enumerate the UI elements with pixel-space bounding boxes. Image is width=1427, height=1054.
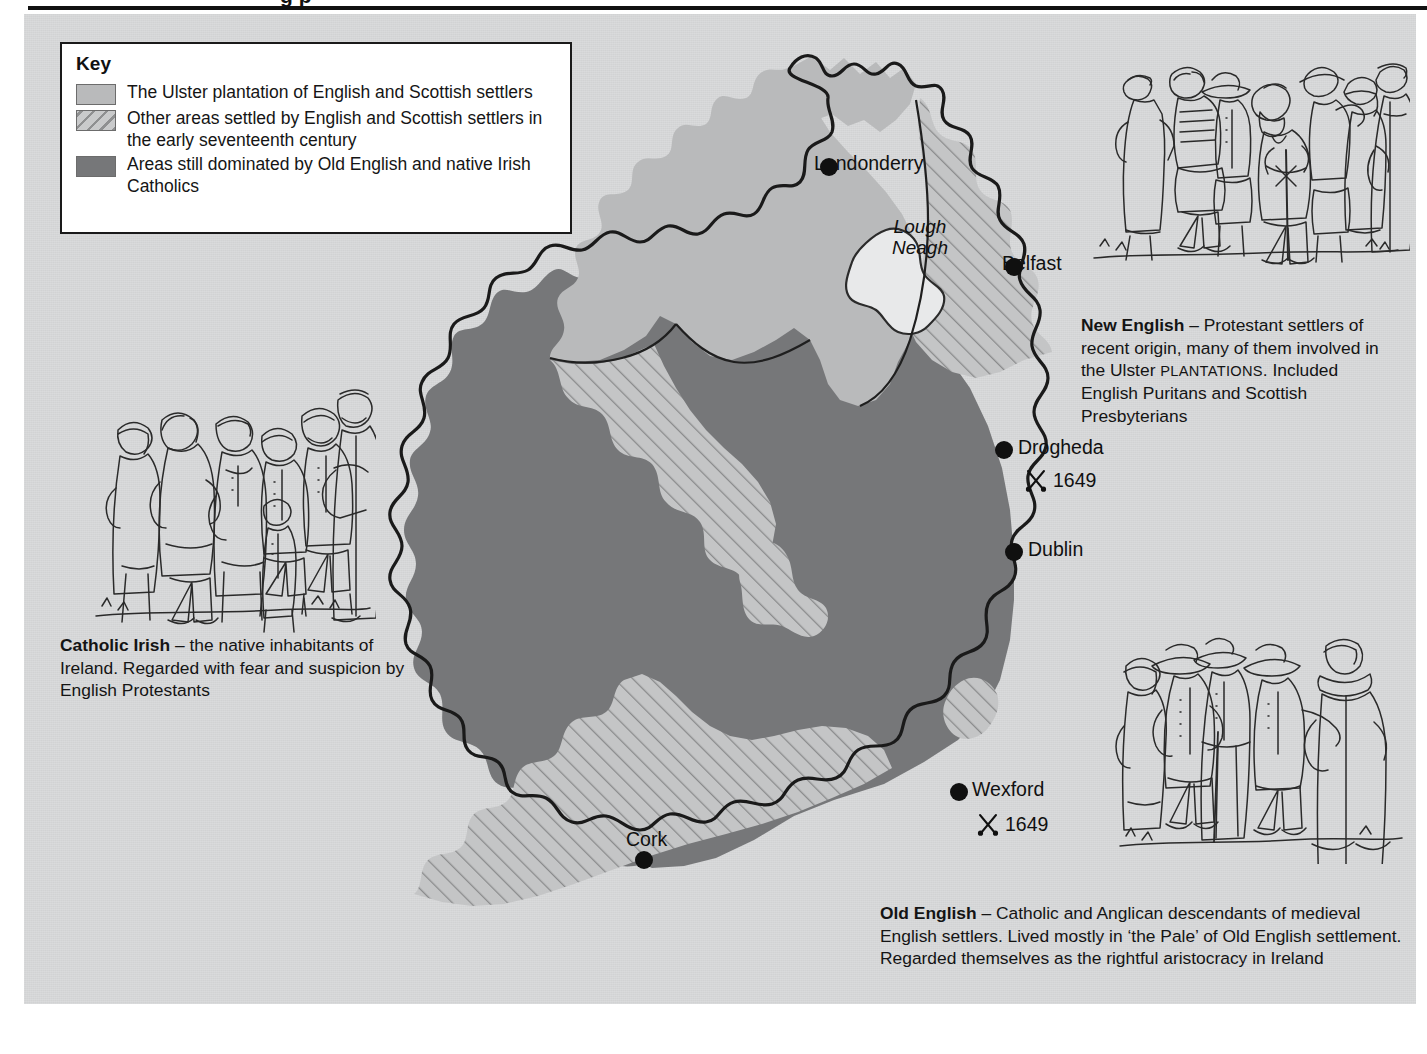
- clipped-heading-text: g p: [280, 0, 312, 8]
- battle-year-drogheda: 1649: [1053, 469, 1096, 492]
- water-label-lough-neagh: Lough Neagh: [892, 216, 948, 259]
- crossed-swords-icon: [976, 812, 1000, 836]
- old-english-figures-drawing: [1110, 614, 1410, 864]
- illustration-old-english: [1110, 614, 1410, 864]
- annotation-title-old-english: Old English: [880, 903, 977, 923]
- page-top-rule: [28, 6, 1427, 10]
- key-title: Key: [76, 53, 558, 75]
- annotation-catholic-irish: Catholic Irish – the native inhabitants …: [60, 634, 430, 702]
- map-key: Key The Ulster plantation of English and…: [60, 42, 572, 234]
- clipped-heading-fragment: g p: [280, 0, 600, 8]
- city-dot-dublin: [1005, 543, 1023, 561]
- crossed-swords-icon: [1024, 468, 1048, 492]
- key-label-catholic-dominated: Areas still dominated by Old English and…: [127, 154, 558, 197]
- battle-marker-drogheda: 1649: [1024, 468, 1096, 492]
- new-english-figures-drawing: [1080, 40, 1410, 280]
- city-label-drogheda: Drogheda: [1018, 436, 1104, 459]
- battle-year-wexford: 1649: [1005, 813, 1048, 836]
- map-figure-panel: Key The Ulster plantation of English and…: [24, 14, 1416, 1004]
- annotation-new-english: New English – Protestant settlers of rec…: [1081, 314, 1381, 427]
- city-label-belfast: Belfast: [1002, 252, 1062, 275]
- key-item-other-settled: Other areas settled by English and Scott…: [76, 108, 558, 151]
- annotation-smallcaps-plantations: PLANTATIONS: [1160, 363, 1263, 379]
- city-dot-drogheda: [995, 441, 1013, 459]
- key-label-ulster-plantation: The Ulster plantation of English and Sco…: [127, 82, 533, 104]
- city-label-cork: Cork: [626, 828, 667, 851]
- annotation-title-catholic-irish: Catholic Irish: [60, 635, 170, 655]
- city-label-londonderry: Londonderry: [814, 152, 924, 175]
- figure-page: g p Key The Ulster plantation of English…: [0, 0, 1427, 1054]
- key-swatch-ulster-plantation: [76, 84, 116, 105]
- key-item-catholic-dominated: Areas still dominated by Old English and…: [76, 154, 558, 197]
- key-swatch-other-settled: [76, 110, 116, 131]
- key-swatch-catholic-dominated: [76, 156, 116, 177]
- lough-neagh-line-1: Lough: [892, 216, 948, 237]
- battle-marker-wexford: 1649: [976, 812, 1048, 836]
- city-label-wexford: Wexford: [972, 778, 1044, 801]
- lough-neagh-line-2: Neagh: [892, 237, 948, 258]
- annotation-title-new-english: New English: [1081, 315, 1184, 335]
- catholic-irish-figures-drawing: [86, 386, 376, 636]
- key-item-ulster-plantation: The Ulster plantation of English and Sco…: [76, 82, 558, 105]
- illustration-catholic-irish: [86, 386, 376, 636]
- key-label-other-settled: Other areas settled by English and Scott…: [127, 108, 558, 151]
- region-ulster-plantation: [550, 56, 924, 406]
- city-dot-cork: [635, 851, 653, 869]
- annotation-old-english: Old English – Catholic and Anglican desc…: [880, 902, 1420, 970]
- annotation-dash-old-english: –: [977, 903, 996, 923]
- annotation-dash-new-english: –: [1184, 315, 1203, 335]
- city-label-dublin: Dublin: [1028, 538, 1083, 561]
- city-dot-wexford: [950, 783, 968, 801]
- annotation-dash-catholic-irish: –: [170, 635, 189, 655]
- illustration-new-english: [1080, 40, 1410, 280]
